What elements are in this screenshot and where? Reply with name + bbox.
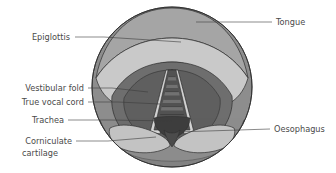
laryngoscopic-view-diagram: Tongue Epiglottis Vestibular fold True v… xyxy=(0,0,336,173)
anatomy-group xyxy=(92,7,252,167)
label-tongue: Tongue xyxy=(275,17,305,27)
label-corniculate-cartilage-line2: cartilage xyxy=(22,148,58,158)
label-corniculate-cartilage: Corniculate xyxy=(25,136,72,146)
label-true-vocal-cord: True vocal cord xyxy=(21,97,84,107)
label-oesophagus: Oesophagus xyxy=(274,124,325,134)
label-epiglottis: Epiglottis xyxy=(32,32,70,42)
figure-root: Tongue Epiglottis Vestibular fold True v… xyxy=(0,0,336,173)
label-trachea: Trachea xyxy=(31,115,64,125)
label-vestibular-fold: Vestibular fold xyxy=(25,83,84,93)
